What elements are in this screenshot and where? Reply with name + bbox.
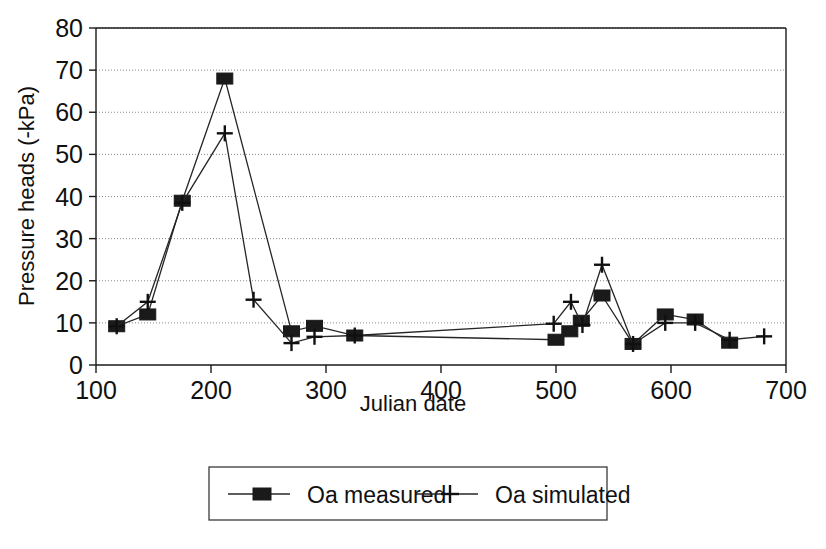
y-tick-label: 50: [55, 140, 83, 168]
x-tick-label: 100: [75, 376, 117, 404]
legend-marker-square: [253, 488, 271, 500]
x-tick-label: 500: [535, 376, 577, 404]
y-tick-label: 40: [55, 183, 83, 211]
data-series: [109, 73, 772, 352]
y-tick-label: 0: [69, 351, 83, 379]
y-tick-label: 30: [55, 225, 83, 253]
legend-label: Oa measured: [307, 482, 446, 508]
data-point-square: [562, 326, 578, 337]
series-1: [109, 73, 738, 349]
data-point-square: [140, 309, 156, 320]
legend-label: Oa simulated: [495, 482, 631, 508]
y-tick-label: 20: [55, 267, 83, 295]
y-tick-label: 10: [55, 309, 83, 337]
x-tick-label: 200: [190, 376, 232, 404]
x-tick-label: 700: [765, 376, 807, 404]
y-tick-label: 60: [55, 98, 83, 126]
x-tick-label: 600: [650, 376, 692, 404]
x-tick-label: 300: [305, 376, 347, 404]
data-point-square: [217, 73, 233, 84]
chart-figure: 100200300400500600700 01020304050607080 …: [0, 0, 826, 549]
data-point-square: [594, 290, 610, 301]
x-axis-title: Julian date: [360, 391, 466, 416]
chart-legend: Oa measuredOa simulated: [209, 467, 631, 520]
y-axis-title: Pressure heads (-kPa): [14, 86, 39, 306]
y-axis-tick-labels: 01020304050607080: [55, 14, 83, 379]
y-tick-label: 80: [55, 14, 83, 42]
series-polyline: [117, 79, 730, 344]
y-tick-label: 70: [55, 56, 83, 84]
axis-ticks: [89, 28, 786, 373]
pressure-heads-line-chart: 100200300400500600700 01020304050607080 …: [0, 0, 826, 549]
